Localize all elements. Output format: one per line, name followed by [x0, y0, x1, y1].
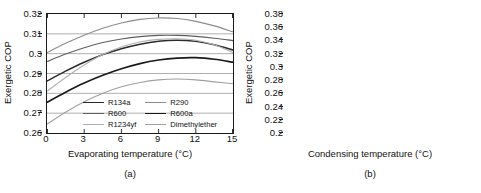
x-tick-label: 9 — [155, 133, 160, 144]
legend-item-r134a: R134a — [83, 97, 136, 108]
x-axis-label-a: Evaporating temperature (°C) — [20, 148, 240, 159]
legend-swatch-icon — [83, 102, 104, 103]
legend-swatch-icon — [83, 113, 104, 114]
legend-label: Dimethylether — [170, 120, 217, 129]
y-tick-mark — [279, 26, 283, 27]
y-tick-mark — [38, 132, 42, 133]
chart-panel-b: Exergetic COP 0.20.220.240.260.280.30.32… — [240, 0, 480, 193]
y-tick-mark — [279, 39, 283, 40]
x-tick-label: 6 — [118, 133, 123, 144]
legend-item-dimethylether: Dimethylether — [145, 119, 217, 130]
legend-item-r600: R600 — [83, 108, 136, 119]
series-line-r600a — [47, 58, 233, 103]
legend-label: R600 — [108, 109, 126, 118]
legend-swatch-icon — [145, 102, 166, 103]
x-tick-label: 0 — [43, 133, 48, 144]
legend-label: R134a — [108, 98, 130, 107]
y-tick-mark — [279, 92, 283, 93]
y-tick-mark — [279, 119, 283, 120]
x-tick-label: 15 — [227, 133, 238, 144]
y-tick-mark — [38, 73, 42, 74]
legend-swatch-icon — [145, 124, 166, 125]
y-tick-mark — [279, 132, 283, 133]
legend-a: R134aR290R600R600aR1234yfDimethylether — [83, 97, 217, 130]
y-tick-mark — [38, 92, 42, 93]
x-axis-ticks-a: 03691215 — [46, 133, 232, 145]
series-line-r290 — [47, 18, 233, 53]
y-tick-mark — [38, 13, 42, 14]
x-axis-label-b: Condensing temperature (°C) — [260, 148, 480, 159]
legend-label: R290 — [170, 98, 188, 107]
y-tick-mark — [279, 79, 283, 80]
series-line-r1234yf — [47, 39, 233, 92]
y-tick-mark — [38, 53, 42, 54]
legend-label: R600a — [170, 109, 192, 118]
legend-item-r290: R290 — [145, 97, 217, 108]
y-tick-mark — [38, 33, 42, 34]
x-tick-label: 3 — [81, 133, 86, 144]
panel-caption-a: (a) — [20, 168, 240, 179]
figure-root: Exergetic COP 0.260.270.280.290.30.310.3… — [0, 0, 481, 193]
legend-item-r1234yf: R1234yf — [83, 119, 136, 130]
y-tick-mark — [279, 66, 283, 67]
x-tick-label: 12 — [190, 133, 201, 144]
chart-panel-a: Exergetic COP 0.260.270.280.290.30.310.3… — [0, 0, 240, 193]
series-line-r134a — [47, 40, 233, 81]
y-tick-mark — [279, 13, 283, 14]
y-tick-mark — [279, 106, 283, 107]
y-tick-mark — [279, 53, 283, 54]
y-axis-ticks-a: 0.260.270.280.290.30.310.32 — [8, 0, 42, 193]
panel-caption-b: (b) — [260, 168, 480, 179]
y-tick-mark — [38, 112, 42, 113]
legend-label: R1234yf — [108, 120, 136, 129]
legend-swatch-icon — [145, 113, 166, 114]
y-axis-ticks-b: 0.20.220.240.260.280.30.320.340.360.38 — [249, 0, 283, 193]
legend-item-r600a: R600a — [145, 108, 217, 119]
legend-swatch-icon — [83, 124, 104, 125]
